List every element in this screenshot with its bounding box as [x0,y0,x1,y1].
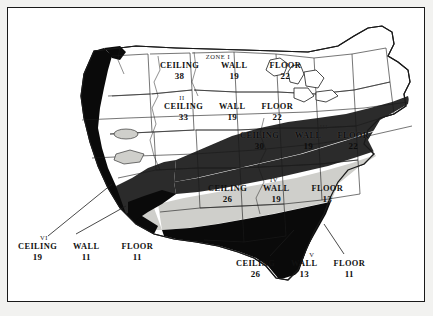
zone-4-heading: IV [264,177,284,184]
zone-6-heading: VI [34,235,54,242]
zone-4-ceiling-value: 26 [208,195,247,204]
zone-6-ceiling: CEILING 19 [18,243,57,262]
zone-1-floor-label: FLOOR [269,62,301,71]
zone-2-values: CEILING 33 WALL 19 FLOOR 22 [164,103,293,122]
zone-5-ceiling-label: CEILING [236,260,275,269]
zone-2-wall-label: WALL [219,103,245,112]
zone-1-ceiling-value: 38 [160,72,199,81]
zone-4-values: CEILING 26 WALL 19 FLOOR 13 [208,185,343,204]
zone-1-ceiling: CEILING 38 [160,62,199,81]
zone-4-wall-value: 19 [263,195,289,204]
zone-6-callout: VI CEILING 19 WALL 11 FLOOR 11 [18,236,153,262]
zone-3-callout: III CEILING 30 WALL 19 FLOOR 22 [240,125,369,151]
zone-3-wall-value: 19 [295,142,321,151]
zone-6-wall: WALL 11 [73,243,99,262]
zone-1-wall: WALL 19 [221,62,247,81]
zone-1-callout: ZONE I CEILING 38 WALL 19 FLOOR 22 [160,55,301,81]
zone-3-values: CEILING 30 WALL 19 FLOOR 22 [240,132,369,151]
figure-root: ZONE I CEILING 38 WALL 19 FLOOR 22 [0,0,433,316]
zone-5-floor: FLOOR 11 [333,260,365,279]
zone-1-wall-label: WALL [221,62,247,71]
zone-6-values: CEILING 19 WALL 11 FLOOR 11 [18,243,153,262]
zone-5-floor-label: FLOOR [333,260,365,269]
zone-1-wall-value: 19 [221,72,247,81]
zone-6-ceiling-label: CEILING [18,243,57,252]
zone-3-floor: FLOOR 22 [337,132,369,151]
zone-6-floor: FLOOR 11 [121,243,153,262]
zone-1-floor-value: 22 [269,72,301,81]
zone-2-heading: II [172,95,192,102]
zone-5-values: CEILING 26 WALL 13 FLOOR 11 [236,260,365,279]
zone-4-ceiling-label: CEILING [208,185,247,194]
zone-4-wall: WALL 19 [263,185,289,204]
zone-3-floor-label: FLOOR [337,132,369,141]
zone-6-floor-value: 11 [121,253,153,262]
zone-6-ceiling-value: 19 [18,253,57,262]
zone-4-wall-label: WALL [263,185,289,194]
map-plate: ZONE I CEILING 38 WALL 19 FLOOR 22 [7,7,425,302]
zone-5-wall-label: WALL [291,260,317,269]
zone-3-heading: III [314,124,334,131]
zone-6-floor-label: FLOOR [121,243,153,252]
zone-5-floor-value: 11 [333,270,365,279]
zone-5-wall: WALL 13 [291,260,317,279]
zone-1-ceiling-label: CEILING [160,62,199,71]
zone-4-floor-value: 13 [311,195,343,204]
zone-2-wall: WALL 19 [219,103,245,122]
zone-3-floor-value: 22 [337,142,369,151]
zone-5-ceiling-value: 26 [236,270,275,279]
zone-6-wall-value: 11 [73,253,99,262]
zone-6-wall-label: WALL [73,243,99,252]
zone-3-ceiling-label: CEILING [240,132,279,141]
zone-2-ceiling: CEILING 33 [164,103,203,122]
zone-1-heading: ZONE I [194,54,242,61]
zone-5-callout: V CEILING 26 WALL 13 FLOOR 11 [236,253,365,279]
zone-3-wall-label: WALL [295,132,321,141]
zone-2-ceiling-label: CEILING [164,103,203,112]
zone-2-ceiling-value: 33 [164,113,203,122]
zone-5-ceiling: CEILING 26 [236,260,275,279]
zone-2-wall-value: 19 [219,113,245,122]
zone-4-floor: FLOOR 13 [311,185,343,204]
zone-3-ceiling: CEILING 30 [240,132,279,151]
zone-1-values: CEILING 38 WALL 19 FLOOR 22 [160,62,301,81]
zone-3-ceiling-value: 30 [240,142,279,151]
zone-4-callout: IV CEILING 26 WALL 19 FLOOR 13 [208,178,343,204]
zone-3-wall: WALL 19 [295,132,321,151]
zone-5-heading: V [302,252,322,259]
zone-5-wall-value: 13 [291,270,317,279]
zone-2-callout: II CEILING 33 WALL 19 FLOOR 22 [164,96,293,122]
zone-2-floor-value: 22 [261,113,293,122]
zone-4-floor-label: FLOOR [311,185,343,194]
zone-2-floor-label: FLOOR [261,103,293,112]
zone-4-ceiling: CEILING 26 [208,185,247,204]
zone-2-floor: FLOOR 22 [261,103,293,122]
zone-1-floor: FLOOR 22 [269,62,301,81]
